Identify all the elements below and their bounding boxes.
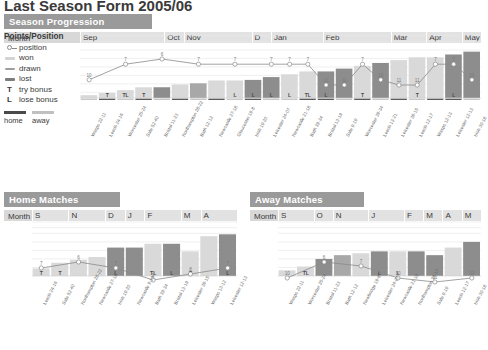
position-value-label: 10 bbox=[378, 73, 384, 78]
position-value-label: 7 bbox=[270, 57, 273, 62]
position-point bbox=[39, 266, 43, 270]
bonus-letter: T bbox=[361, 92, 364, 98]
lost-swatch-icon bbox=[4, 78, 15, 81]
position-point bbox=[324, 83, 328, 87]
legend-item-lost: lost bbox=[4, 74, 80, 85]
venue-underline bbox=[172, 99, 188, 100]
position-value-label: 7 bbox=[226, 261, 229, 266]
position-value-label: 7 bbox=[434, 57, 437, 62]
position-value-label: 8 bbox=[189, 267, 192, 272]
result-bar bbox=[334, 255, 351, 276]
venue-underline bbox=[81, 99, 97, 100]
legend-item-label: lost bbox=[19, 74, 31, 85]
position-value-label: 7 bbox=[452, 57, 455, 62]
position-point bbox=[322, 260, 326, 264]
legend-item-label: position bbox=[19, 43, 47, 54]
position-marker-icon bbox=[4, 45, 15, 50]
venue-underline bbox=[135, 99, 151, 100]
position-point bbox=[123, 62, 127, 66]
legend-item-label: lose bonus bbox=[19, 95, 58, 106]
position-point bbox=[379, 78, 383, 82]
home-month-header-label: Month bbox=[4, 210, 32, 221]
bonus-letter: L bbox=[325, 92, 328, 98]
venue-underline bbox=[336, 99, 352, 100]
chart-legend: Points/Position positionwondrawnlostTtry… bbox=[4, 32, 80, 106]
bonus-letter: L bbox=[288, 92, 291, 98]
season-progression-panel: Season Progression Month SepOctNovDJanFe… bbox=[4, 14, 481, 43]
home-matches-panel: Home Matches Month SNDJFMA 9182736455157… bbox=[4, 192, 237, 221]
home-x-axis-labels: Leeds 24-16Sale 52-40Northampton 28-22Ne… bbox=[32, 302, 237, 346]
venue-underline bbox=[409, 99, 425, 100]
bonus-letter: L bbox=[252, 92, 255, 98]
legend-item-try-bonus: Ttry bonus bbox=[4, 85, 80, 96]
drawn-swatch-icon bbox=[4, 68, 15, 71]
venue-underline bbox=[208, 99, 224, 100]
venue-underline bbox=[281, 99, 297, 100]
position-point bbox=[76, 260, 80, 264]
won-swatch-icon bbox=[4, 57, 15, 60]
venue-underline bbox=[300, 99, 316, 100]
venue-underline bbox=[354, 99, 370, 100]
venue-underline bbox=[154, 99, 170, 100]
position-point bbox=[360, 62, 364, 66]
venue-underline bbox=[372, 99, 388, 100]
venue-underline bbox=[427, 99, 443, 100]
position-value-label: 7 bbox=[360, 259, 363, 264]
position-value-label: 7 bbox=[115, 261, 118, 266]
venue-underline bbox=[117, 99, 133, 100]
position-point bbox=[160, 57, 164, 61]
bonus-letter: L bbox=[270, 92, 273, 98]
bonus-letter: T bbox=[416, 92, 419, 98]
legend-item-label: won bbox=[19, 53, 34, 64]
position-value-label: 6 bbox=[77, 255, 80, 260]
position-point bbox=[87, 78, 91, 82]
position-value-label: 6 bbox=[323, 255, 326, 260]
result-bar bbox=[208, 80, 225, 98]
position-point bbox=[397, 83, 401, 87]
position-value-label: 11 bbox=[397, 78, 402, 83]
position-point bbox=[269, 62, 273, 66]
position-point bbox=[415, 83, 419, 87]
season-progression-title: Season Progression bbox=[4, 14, 152, 29]
venue-underline bbox=[245, 99, 261, 100]
position-point bbox=[470, 78, 474, 82]
venue-underline bbox=[99, 99, 115, 100]
venue-underline bbox=[263, 99, 279, 100]
away-x-axis-labels: Wasps 22-11Worcester 25-24Bristol 11-23B… bbox=[278, 302, 481, 346]
legend-title: Points/Position bbox=[4, 32, 80, 43]
position-value-label: 10 bbox=[469, 271, 475, 276]
position-value-label: 7 bbox=[40, 261, 43, 266]
position-value-label: 7 bbox=[197, 57, 200, 62]
result-bar bbox=[81, 95, 98, 98]
position-point bbox=[196, 62, 200, 66]
position-point bbox=[114, 266, 118, 270]
home-matches-chart: 9182736455157TTLTLLTL767987 bbox=[32, 218, 237, 302]
position-point bbox=[452, 62, 456, 66]
position-point bbox=[342, 83, 346, 87]
position-value-label: 7 bbox=[288, 57, 291, 62]
result-bar bbox=[408, 251, 425, 276]
away-legend-label: away bbox=[32, 116, 54, 125]
try-bonus-letter-icon: T bbox=[4, 85, 15, 96]
bonus-letter: L bbox=[170, 270, 173, 276]
position-value-label: 10 bbox=[285, 271, 291, 276]
away-matches-chart: 9182736455157TLLL1067101110 bbox=[278, 218, 481, 302]
legend-item-drawn: drawn bbox=[4, 64, 80, 75]
home-matches-title: Home Matches bbox=[4, 192, 120, 207]
position-point bbox=[288, 62, 292, 66]
bonus-letter: T bbox=[58, 270, 61, 276]
away-month-header-label: Month bbox=[250, 210, 278, 221]
result-bar bbox=[154, 87, 171, 98]
bonus-letter: L bbox=[452, 92, 455, 98]
bonus-letter: TL bbox=[123, 92, 129, 98]
position-point bbox=[306, 62, 310, 66]
bonus-letter: T bbox=[142, 92, 145, 98]
position-value-label: 7 bbox=[307, 57, 310, 62]
home-bar-swatch bbox=[4, 111, 26, 114]
position-value-label: 11 bbox=[415, 78, 420, 83]
position-point bbox=[233, 62, 237, 66]
home-away-legend: home away bbox=[4, 109, 54, 125]
result-bar bbox=[445, 248, 462, 276]
away-matches-title: Away Matches bbox=[250, 192, 364, 207]
venue-underline bbox=[391, 99, 407, 100]
